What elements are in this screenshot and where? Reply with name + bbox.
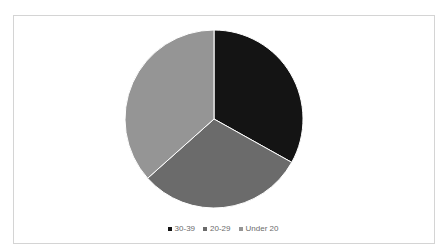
legend: 30-39 20-29 Under 20 xyxy=(0,224,446,233)
legend-item-20-29: 20-29 xyxy=(203,224,230,233)
legend-swatch-icon xyxy=(168,227,172,231)
legend-swatch-icon xyxy=(203,227,207,231)
legend-label: 30-39 xyxy=(175,224,195,233)
legend-swatch-icon xyxy=(239,227,243,231)
pie-chart xyxy=(0,0,446,252)
legend-item-30-39: 30-39 xyxy=(168,224,195,233)
legend-label: 20-29 xyxy=(210,224,230,233)
legend-item-under-20: Under 20 xyxy=(239,224,279,233)
pie-slices xyxy=(125,30,303,208)
legend-label: Under 20 xyxy=(246,224,279,233)
